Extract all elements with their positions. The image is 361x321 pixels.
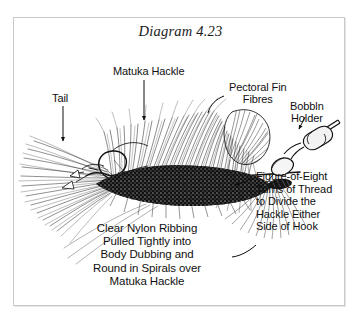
- label-bobbin-holder: Bobbln Holder: [290, 100, 324, 124]
- diagram-figure: Diagram 4.23: [0, 0, 361, 321]
- label-clear-nylon-ribbing: Clear Nylon Ribbing Pulled Tightly into …: [63, 222, 231, 288]
- label-tail: Tail: [52, 93, 68, 105]
- label-figure-of-eight-turns: Figure-of-Eight Turns of Thread to Divid…: [256, 170, 332, 233]
- label-matuka-hackle: Matuka Hackle: [113, 66, 184, 78]
- figure-title: Diagram 4.23: [0, 23, 361, 40]
- label-pectoral-fin-fibres: Pectoral Fin Fibres: [229, 81, 287, 105]
